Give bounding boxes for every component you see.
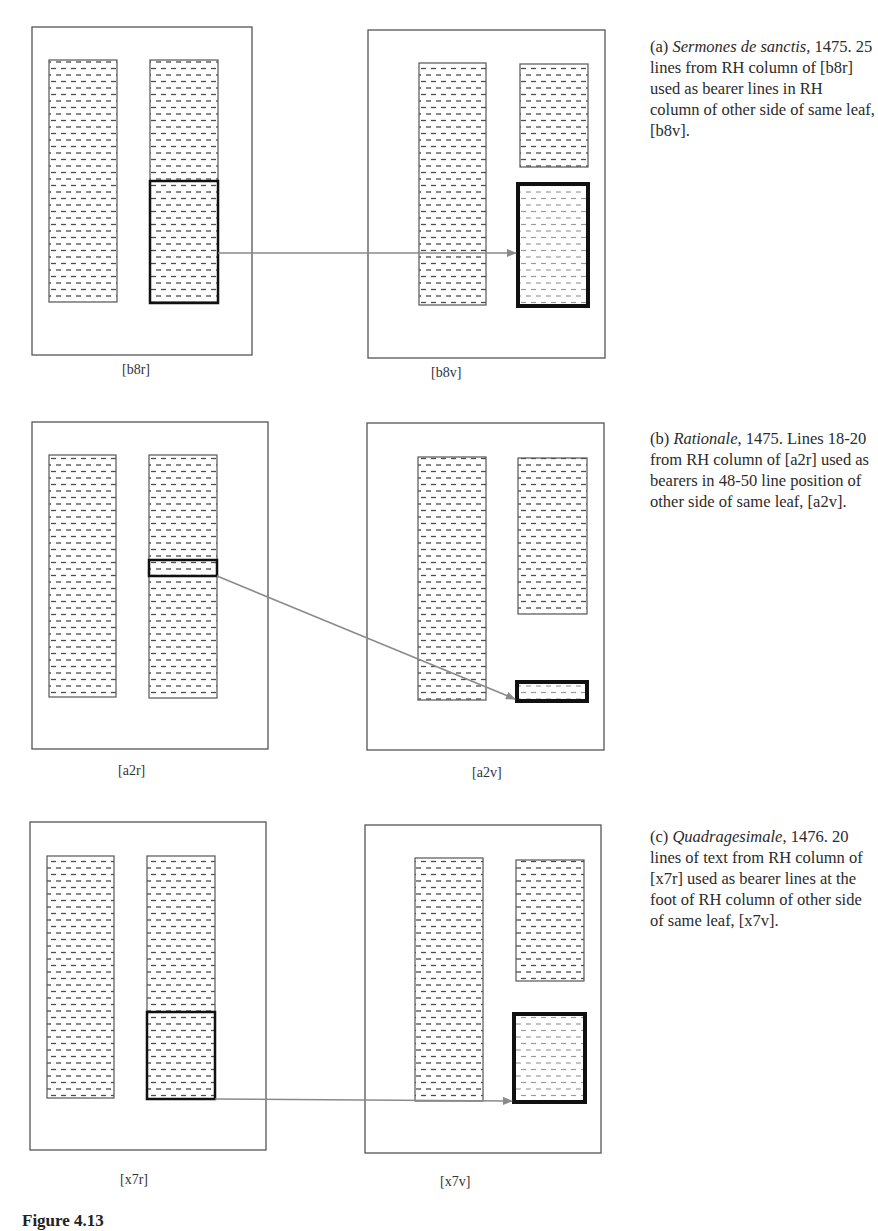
book-title: Rationale: [673, 429, 737, 448]
verso-bearer-lines: [520, 186, 586, 304]
panel-c-caption: (c) Quadragesimale, 1476. 20 lines of te…: [650, 826, 875, 931]
recto-text-column-1: [49, 60, 117, 302]
recto-text-column-1: [47, 856, 114, 1098]
recto-page-label: [b8r]: [122, 362, 150, 378]
recto-text-column-2: [147, 856, 215, 1099]
verso-page-label: [b8v]: [431, 365, 461, 381]
verso-page-label: [a2v]: [472, 765, 502, 781]
verso-text-column-2: [516, 860, 584, 981]
recto-text-column-1: [49, 455, 116, 697]
panel-b-caption: (b) Rationale, 1475. Lines 18-20 from RH…: [650, 428, 875, 512]
panel-c: [30, 822, 601, 1153]
verso-bearer-lines: [516, 1016, 583, 1100]
verso-text-column-2: [520, 64, 588, 167]
book-title: Quadragesimale: [672, 827, 782, 846]
recto-page-label: [x7r]: [120, 1172, 148, 1188]
panel-b: [32, 422, 604, 750]
recto-page-label: [a2r]: [118, 763, 145, 779]
panel-a: [32, 27, 605, 358]
verso-text-column-1: [419, 63, 486, 305]
verso-text-column-2: [518, 458, 587, 614]
verso-text-column-1: [415, 858, 483, 1101]
book-title: Sermones de sanctis,: [672, 37, 810, 56]
panel-a-caption: (a) Sermones de sanctis, 1475. 25 lines …: [650, 36, 875, 141]
verso-page-label: [x7v]: [440, 1174, 470, 1190]
figure-caption: Figure 4.13: [22, 1211, 104, 1231]
verso-bearer-lines: [519, 684, 585, 699]
